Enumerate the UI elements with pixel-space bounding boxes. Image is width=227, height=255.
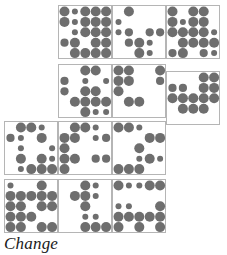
dot bbox=[60, 7, 70, 17]
dot bbox=[80, 27, 90, 37]
dot-panel bbox=[59, 65, 112, 118]
dot bbox=[6, 222, 16, 232]
dot bbox=[168, 27, 178, 37]
dot bbox=[134, 48, 144, 58]
dot bbox=[72, 29, 78, 35]
dot bbox=[188, 104, 198, 114]
dot bbox=[60, 143, 70, 153]
dot bbox=[60, 39, 68, 47]
dot-panel bbox=[5, 180, 58, 233]
dot bbox=[188, 38, 198, 48]
dot bbox=[80, 123, 90, 133]
dot bbox=[60, 17, 70, 27]
dot bbox=[60, 77, 68, 85]
dot bbox=[168, 17, 178, 27]
dot bbox=[178, 38, 188, 48]
dot bbox=[124, 123, 134, 133]
dot bbox=[80, 17, 90, 27]
dot bbox=[114, 86, 124, 96]
dot bbox=[60, 164, 70, 174]
dot bbox=[103, 78, 109, 84]
dot bbox=[39, 125, 45, 131]
dot bbox=[211, 29, 217, 35]
dot bbox=[178, 104, 188, 114]
dot bbox=[37, 222, 47, 232]
dot bbox=[136, 183, 142, 189]
dot bbox=[156, 28, 164, 36]
dot bbox=[103, 109, 109, 115]
dot bbox=[16, 201, 26, 211]
dot bbox=[91, 7, 101, 17]
dot bbox=[124, 164, 134, 174]
dot bbox=[18, 166, 24, 172]
dot-panel bbox=[113, 180, 166, 233]
dot bbox=[145, 181, 155, 191]
dot bbox=[16, 212, 26, 222]
dot bbox=[80, 107, 90, 117]
dot bbox=[155, 201, 165, 211]
dot bbox=[102, 155, 110, 163]
dot bbox=[178, 27, 188, 37]
dot bbox=[16, 123, 26, 133]
dot bbox=[91, 27, 101, 37]
dot bbox=[93, 183, 99, 189]
dot bbox=[114, 222, 124, 232]
dot bbox=[80, 48, 90, 58]
dot bbox=[126, 183, 132, 189]
dot bbox=[91, 86, 101, 96]
dot bbox=[80, 222, 90, 232]
dot bbox=[147, 50, 153, 56]
dot bbox=[26, 212, 36, 222]
dot bbox=[101, 97, 111, 107]
dot bbox=[134, 212, 144, 222]
dot bbox=[116, 203, 122, 209]
dot bbox=[155, 181, 165, 191]
dot bbox=[70, 133, 80, 143]
dot bbox=[6, 201, 16, 211]
dot-matrix-svg bbox=[0, 0, 227, 255]
dot bbox=[6, 212, 16, 222]
dot bbox=[134, 222, 144, 232]
dot bbox=[92, 155, 100, 163]
dot bbox=[156, 77, 164, 85]
dot bbox=[80, 97, 90, 107]
dot bbox=[70, 97, 80, 107]
dot bbox=[72, 19, 78, 25]
dot bbox=[136, 156, 142, 162]
dot bbox=[199, 83, 209, 93]
dot bbox=[145, 212, 155, 222]
dot bbox=[72, 9, 78, 15]
dot bbox=[16, 154, 26, 164]
dot bbox=[102, 134, 110, 142]
dot bbox=[124, 97, 134, 107]
dot bbox=[18, 145, 24, 151]
dot bbox=[145, 133, 155, 143]
dot bbox=[114, 76, 124, 86]
dot bbox=[60, 133, 70, 143]
dot bbox=[91, 48, 101, 58]
dot bbox=[211, 50, 217, 56]
dot bbox=[70, 48, 80, 58]
dot-panel bbox=[113, 65, 166, 118]
dot-panel bbox=[5, 122, 58, 175]
dot bbox=[26, 123, 36, 133]
dot bbox=[101, 7, 111, 17]
dot-panel bbox=[113, 6, 166, 59]
dot bbox=[147, 40, 153, 46]
dot bbox=[101, 48, 111, 58]
dot bbox=[82, 78, 88, 84]
dot bbox=[209, 93, 219, 103]
dot bbox=[125, 39, 133, 47]
dot bbox=[188, 27, 198, 37]
dot bbox=[180, 19, 186, 25]
dot-panel bbox=[167, 72, 220, 125]
dot bbox=[155, 222, 165, 232]
dot bbox=[16, 191, 26, 201]
dot bbox=[26, 164, 36, 174]
dot bbox=[80, 7, 90, 17]
dot bbox=[168, 49, 176, 57]
dot bbox=[91, 97, 101, 107]
dot bbox=[200, 49, 208, 57]
dot bbox=[101, 17, 111, 27]
dot bbox=[93, 135, 99, 141]
